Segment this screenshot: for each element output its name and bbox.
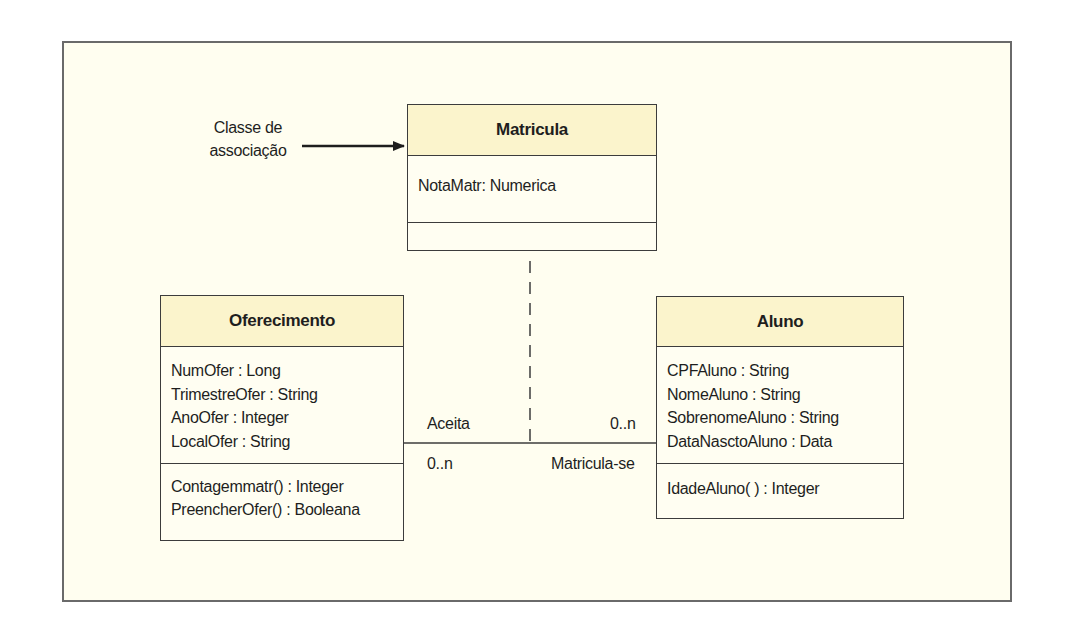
- multiplicity-right: 0..n: [610, 415, 636, 433]
- class-aluno[interactable]: Aluno CPFAluno : String NomeAluno : Stri…: [656, 296, 904, 519]
- class-oferecimento-name: Oferecimento: [161, 296, 403, 347]
- attribute: NumOfer : Long: [171, 359, 393, 383]
- class-aluno-attributes: CPFAluno : String NomeAluno : String Sob…: [657, 347, 903, 464]
- class-matricula[interactable]: Matricula NotaMatr: Numerica: [407, 104, 657, 251]
- role-label-aceita: Aceita: [427, 415, 470, 433]
- class-oferecimento-operations: Contagemmatr() : Integer PreencherOfer()…: [161, 464, 403, 525]
- note-line-2: associação: [196, 139, 300, 162]
- attribute: LocalOfer : String: [171, 430, 393, 454]
- operation: Contagemmatr() : Integer: [171, 475, 393, 498]
- class-oferecimento-attributes: NumOfer : Long TrimestreOfer : String An…: [161, 347, 403, 464]
- attribute: TrimestreOfer : String: [171, 383, 393, 407]
- attribute: DataNasctoAluno : Data: [667, 430, 893, 454]
- operation: IdadeAluno( ) : Integer: [667, 477, 893, 500]
- operation: PreencherOfer() : Booleana: [171, 498, 393, 521]
- attribute: NomeAluno : String: [667, 383, 893, 407]
- attribute: CPFAluno : String: [667, 359, 893, 383]
- attribute: NotaMatr: Numerica: [418, 174, 646, 197]
- class-aluno-name: Aluno: [657, 297, 903, 347]
- attribute: AnoOfer : Integer: [171, 406, 393, 430]
- class-matricula-attributes: NotaMatr: Numerica: [408, 156, 656, 223]
- attribute: SobrenomeAluno : String: [667, 406, 893, 430]
- class-oferecimento[interactable]: Oferecimento NumOfer : Long TrimestreOfe…: [160, 295, 404, 541]
- association-class-note: Classe de associação: [196, 116, 300, 162]
- multiplicity-left: 0..n: [427, 455, 453, 473]
- class-aluno-operations: IdadeAluno( ) : Integer: [657, 464, 903, 504]
- role-label-matricula-se: Matricula-se: [551, 455, 635, 473]
- class-matricula-name: Matricula: [408, 105, 656, 156]
- note-line-1: Classe de: [196, 116, 300, 139]
- class-matricula-operations: [408, 223, 656, 249]
